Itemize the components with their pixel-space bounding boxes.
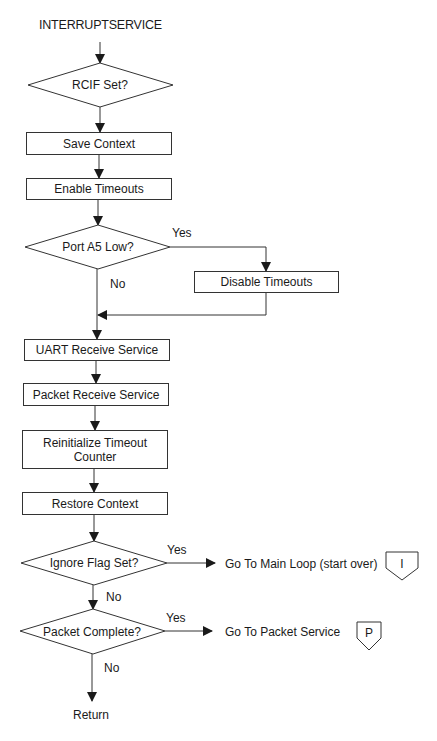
reinit-line2: Counter <box>74 450 117 464</box>
port-a5-no-label: No <box>110 277 125 291</box>
decision-packet-complete-label: Packet Complete? <box>43 625 141 639</box>
process-reinit-timeout: Reinitialize Timeout Counter <box>22 430 168 469</box>
ignore-flag-yes-label: Yes <box>167 543 187 557</box>
process-packet-receive: Packet Receive Service <box>23 383 169 406</box>
packet-complete-yes-label: Yes <box>166 611 186 625</box>
return-text: Return <box>73 708 109 722</box>
decision-rcif-label: RCIF Set? <box>72 78 128 92</box>
connector-p-label: P <box>365 626 373 640</box>
connector-i-label: I <box>400 557 403 571</box>
process-disable-timeouts: Disable Timeouts <box>194 271 339 293</box>
goto-packet-service-text: Go To Packet Service <box>225 625 340 639</box>
process-enable-timeouts: Enable Timeouts <box>26 178 172 200</box>
packet-complete-no-label: No <box>104 661 119 675</box>
port-a5-yes-label: Yes <box>172 226 192 240</box>
decision-ignore-flag-label: Ignore Flag Set? <box>50 556 139 570</box>
process-restore-context: Restore Context <box>22 492 168 515</box>
ignore-flag-no-label: No <box>106 590 121 604</box>
process-save-context: Save Context <box>26 132 172 155</box>
goto-main-loop-text: Go To Main Loop (start over) <box>225 557 378 571</box>
reinit-line1: Reinitialize Timeout <box>43 436 147 450</box>
decision-port-a5-label: Port A5 Low? <box>62 240 133 254</box>
process-uart-receive: UART Receive Service <box>24 339 170 361</box>
diagram-title: INTERRUPTSERVICE <box>39 18 162 32</box>
